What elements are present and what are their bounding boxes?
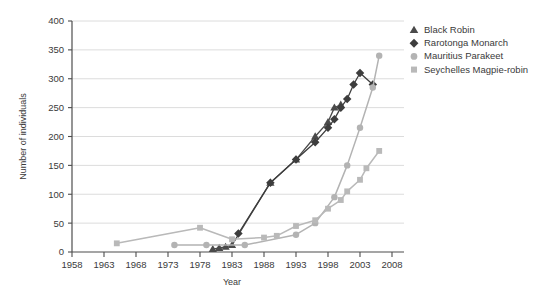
legend-item-mauritius-parakeet[interactable]: Mauritius Parakeet	[411, 50, 504, 61]
y-tick-label: 400	[48, 15, 64, 26]
x-tick-label: 1973	[157, 259, 178, 270]
data-point-marker	[344, 188, 350, 194]
series-line	[238, 73, 372, 234]
y-tick-label: 150	[48, 160, 64, 171]
legend-item-black-robin[interactable]: Black Robin	[410, 24, 475, 35]
x-tick-label: 1988	[253, 259, 274, 270]
x-tick-label: 1963	[93, 259, 114, 270]
data-point-marker	[338, 197, 344, 203]
data-point-marker	[229, 236, 235, 242]
data-point-marker	[274, 233, 280, 239]
x-tick-label: 1958	[61, 259, 82, 270]
legend-marker-diamond-icon	[410, 39, 419, 48]
legend-item-label: Black Robin	[424, 24, 475, 35]
series-line	[174, 56, 379, 245]
legend-item-label: Mauritius Parakeet	[424, 50, 504, 61]
x-axis-label-text: Year	[223, 277, 241, 287]
x-tick-label: 2003	[349, 259, 370, 270]
x-tick-label: 1978	[189, 259, 210, 270]
y-tick-label: 0	[59, 246, 64, 257]
legend-marker-square-icon	[411, 67, 417, 73]
data-point-marker	[370, 84, 376, 90]
y-tick-label: 200	[48, 131, 64, 142]
series-mauritius-parakeet	[171, 52, 382, 248]
data-point-marker	[376, 52, 382, 58]
data-point-marker	[171, 242, 177, 248]
y-tick-label: 250	[48, 102, 64, 113]
y-tick-label: 100	[48, 189, 64, 200]
legend: Black RobinRarotonga MonarchMauritius Pa…	[410, 24, 528, 75]
series-seychelles-magpie-robin	[114, 148, 382, 246]
data-point-marker	[349, 80, 358, 89]
data-point-marker	[357, 177, 363, 183]
x-tick-label: 2008	[381, 259, 402, 270]
gridlines	[72, 21, 404, 223]
x-tick-label: 1983	[221, 259, 242, 270]
data-point-marker	[293, 231, 299, 237]
data-point-marker	[261, 235, 267, 241]
chart-container: 050100150200250300350400 195819631968197…	[0, 0, 542, 295]
data-point-marker	[331, 194, 337, 200]
x-tick-label: 1968	[125, 259, 146, 270]
line-chart: 050100150200250300350400 195819631968197…	[0, 0, 542, 295]
legend-marker-circle-icon	[411, 53, 418, 60]
y-axis-label-text: Number of individuals	[18, 93, 28, 180]
x-tick-label: 1993	[285, 259, 306, 270]
data-point-marker	[357, 125, 363, 131]
data-point-marker	[325, 206, 331, 212]
y-axis-title: Number of individuals	[18, 93, 28, 180]
data-point-marker	[344, 162, 350, 168]
data-point-marker	[242, 242, 248, 248]
y-tick-label: 50	[53, 218, 64, 229]
y-tick-label: 350	[48, 44, 64, 55]
data-point-marker	[376, 148, 382, 154]
data-point-marker	[197, 225, 203, 231]
series-rarotonga-monarch	[234, 69, 377, 238]
data-point-marker	[203, 242, 209, 248]
data-point-marker	[312, 217, 318, 223]
x-tick-label: 1998	[317, 259, 338, 270]
legend-item-rarotonga-monarch[interactable]: Rarotonga Monarch	[410, 37, 508, 48]
x-axis-title: Year	[223, 277, 241, 287]
data-point-marker	[363, 165, 369, 171]
y-axis: 050100150200250300350400	[48, 15, 72, 257]
data-point-marker	[114, 240, 120, 246]
legend-item-label: Rarotonga Monarch	[424, 37, 508, 48]
data-point-marker	[293, 223, 299, 229]
legend-item-seychelles-magpie-robin[interactable]: Seychelles Magpie-robin	[411, 64, 528, 75]
x-axis: 1958196319681973197819831988199319982003…	[61, 252, 404, 270]
data-series-group	[114, 52, 383, 252]
y-tick-label: 300	[48, 73, 64, 84]
legend-marker-triangle-icon	[410, 26, 419, 33]
legend-item-label: Seychelles Magpie-robin	[424, 64, 528, 75]
